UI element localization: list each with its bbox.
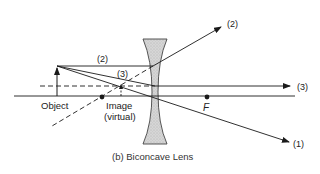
ray-2-top-label: (2) [227,19,238,29]
image-virtual-label: (virtual) [104,111,136,122]
object-label: Object [41,100,69,111]
ray-3-left-label: (3) [117,69,128,79]
figure-caption: (b) Biconcave Lens [112,151,194,162]
ray-3-right-label: (3) [297,82,308,92]
biconcave-lens-ray-diagram: (2) (2) (3) (3) (1) Object Image (virtua… [0,0,320,174]
biconcave-lens [143,39,167,144]
right-focal-point [205,95,210,100]
ray-1-label: (1) [293,139,304,149]
image-label: Image [106,100,132,111]
ray-3-incident [57,66,155,86]
ray-2-left-label: (2) [97,54,108,64]
focal-point-label: F [203,102,210,113]
ray-1 [57,66,289,142]
